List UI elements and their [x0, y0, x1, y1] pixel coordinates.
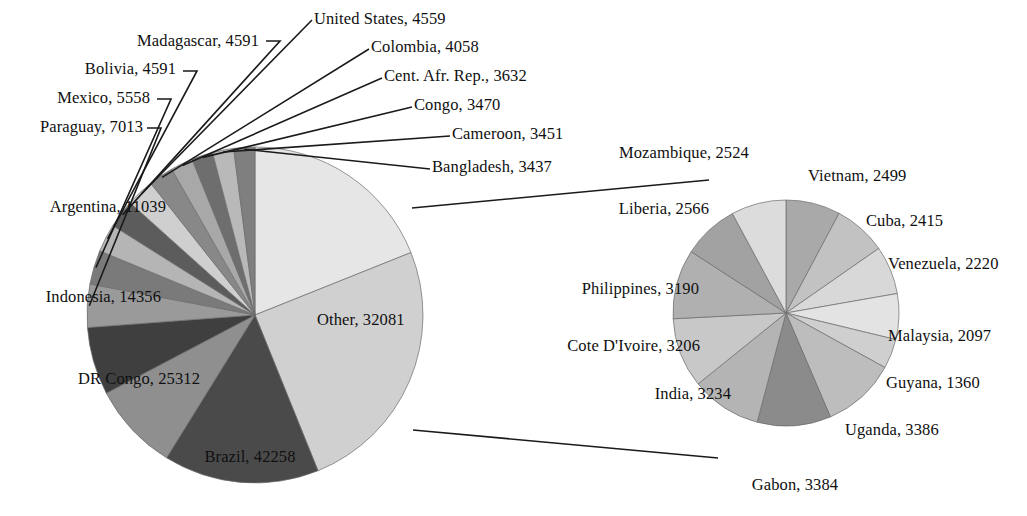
slice-label-venezuela: Venezuela, 2220	[888, 255, 999, 272]
slice-label-liberia: Liberia, 2566	[619, 200, 709, 217]
slice-label-mozambique: Mozambique, 2524	[619, 144, 749, 161]
slice-label-other: Other, 32081	[317, 311, 405, 328]
slice-label-vietnam: Vietnam, 2499	[808, 167, 906, 184]
slice-label-philippines: Philippines, 3190	[582, 280, 699, 297]
slice-label-congo: Congo, 3470	[414, 96, 500, 113]
slice-label-madagascar: Madagascar, 4591	[137, 32, 259, 49]
slice-label-colombia: Colombia, 4058	[371, 38, 479, 55]
pie-connector-lines	[412, 180, 718, 458]
slice-label-uganda: Uganda, 3386	[845, 421, 939, 438]
pie-of-pie-chart: Madagascar, 4591 Bolivia, 4591 Mexico, 5…	[0, 0, 1027, 516]
slice-label-united-states: United States, 4559	[314, 10, 446, 27]
slice-label-cuba: Cuba, 2415	[866, 212, 943, 229]
slice-label-cote-divoire: Cote D'Ivoire, 3206	[567, 337, 700, 354]
slice-label-indonesia: Indonesia, 14356	[46, 288, 161, 305]
slice-label-mexico: Mexico, 5558	[57, 89, 150, 106]
slice-label-cameroon: Cameroon, 3451	[452, 125, 563, 142]
slice-label-bangladesh: Bangladesh, 3437	[432, 158, 552, 175]
slice-label-dr-congo: DR Congo, 25312	[78, 370, 200, 387]
slice-label-india: India, 3234	[655, 385, 731, 402]
connector-bottom	[413, 430, 718, 458]
slice-label-gabon: Gabon, 3384	[752, 476, 838, 493]
slice-label-bolivia: Bolivia, 4591	[85, 60, 176, 77]
slice-label-guyana: Guyana, 1360	[886, 374, 980, 391]
slice-label-malaysia: Malaysia, 2097	[888, 327, 991, 344]
slice-label-paraguay: Paraguay, 7013	[40, 118, 143, 135]
slice-label-argentina: Argentina, 11039	[50, 198, 166, 215]
slice-label-cent-afr-rep: Cent. Afr. Rep., 3632	[384, 67, 527, 84]
slice-label-brazil: Brazil, 42258	[204, 448, 295, 465]
